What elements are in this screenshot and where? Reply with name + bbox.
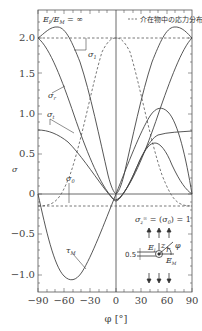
y-tick-1.5: 1.5	[19, 68, 35, 79]
y-tick-1.0: 1.0	[19, 108, 35, 119]
inset-em-label: EM	[165, 256, 177, 266]
y-ticks	[38, 22, 192, 283]
x-tick-90: 90	[186, 295, 199, 306]
x-tick-neg30: −30	[79, 295, 100, 306]
sigma-r-curve	[38, 27, 192, 194]
modulus-ratio-label: EI/EM = ∞	[42, 15, 83, 25]
sigma-r-label: σr	[48, 91, 56, 101]
inset-thickness-label: 0.5	[125, 251, 136, 259]
y-tick-0.5: 0.5	[19, 148, 35, 159]
inset-ei-label: EI	[147, 243, 156, 253]
chart: 2.0 1.5 1.0 0.5 0 −0.5 −1.0 −90 −60 −30 …	[0, 0, 202, 331]
y-tick-0: 0	[29, 188, 35, 199]
y-tick-neg0.5: −0.5	[11, 228, 35, 239]
sigma-theta-curve	[38, 38, 192, 201]
y-axis-label: σ	[12, 165, 18, 174]
sigma-t-label: σt	[47, 110, 55, 120]
y-tick-2.0: 2.0	[19, 32, 35, 43]
sigma-t-right-hump	[116, 143, 192, 200]
leader-lines	[50, 38, 86, 269]
x-tick-60: 60	[161, 295, 174, 306]
y-tick-neg1.0: −1.0	[11, 269, 35, 280]
x-tick-0: 0	[113, 295, 119, 306]
inset-phi-label: φ	[175, 241, 181, 250]
legend-text: 介在物中の応力分布	[140, 15, 202, 24]
sigma-t-curve	[38, 130, 192, 200]
x-axis-label: φ [°]	[105, 313, 128, 324]
x-tick-neg60: −60	[53, 295, 74, 306]
sigma-0-label: σ0	[66, 174, 75, 184]
inclusion-stress-curve-dashed	[38, 38, 192, 206]
sigma-1-label: σ1	[88, 50, 97, 60]
tau-m-label: τM	[66, 246, 76, 256]
load-equation: σz∞ = (σ0) = 1	[135, 215, 191, 225]
x-tick-30: 30	[135, 295, 148, 306]
x-tick-neg90: −90	[27, 295, 48, 306]
